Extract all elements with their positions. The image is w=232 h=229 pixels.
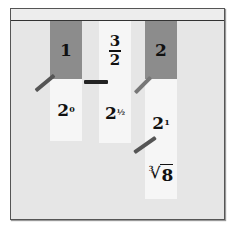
exponent: 0 [69, 104, 75, 114]
power-one: 21 [145, 111, 177, 135]
base: 2 [152, 113, 164, 133]
exponent: ½ [117, 107, 125, 117]
power-half: 2½ [99, 99, 131, 127]
numerator: 3 [110, 34, 120, 49]
fraction: 3 2 [99, 31, 131, 71]
value-one: 1 [60, 40, 72, 60]
clothespin [84, 80, 108, 84]
card-one-bottom: 20 [50, 79, 82, 141]
denominator: 2 [110, 53, 120, 68]
radical-icon: √ [151, 164, 161, 182]
board: 1 20 3 2 2½ 2 21 3 √ 8 [10, 8, 225, 220]
value-two: 2 [155, 40, 167, 60]
cube-root-eight: 3 √ 8 [145, 161, 177, 187]
radicand: 8 [160, 164, 173, 185]
base: 2 [57, 100, 69, 120]
card-one-top: 1 [50, 21, 82, 79]
card-two-top: 2 [145, 21, 177, 79]
exponent: 1 [164, 117, 170, 127]
base: 2 [105, 103, 117, 123]
